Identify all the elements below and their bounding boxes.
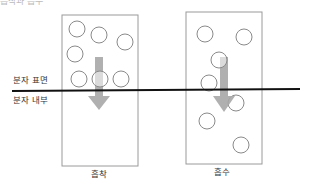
panel-absorption	[186, 12, 262, 164]
molecule-icon	[71, 71, 87, 87]
label-interior: 분자 내부	[13, 96, 48, 105]
molecule-icon	[197, 26, 213, 42]
molecule-icon	[117, 34, 133, 50]
molecule-icon	[199, 113, 215, 129]
label-surface: 분자 표면	[13, 76, 48, 85]
molecule-icon	[69, 21, 85, 37]
molecule-icon	[92, 71, 108, 87]
caption-absorption: 흡수	[214, 168, 230, 177]
molecule-icon	[211, 52, 227, 68]
molecule-icon	[233, 137, 249, 153]
molecule-icon	[236, 29, 252, 45]
molecule-icon	[113, 71, 129, 87]
molecule-icon	[67, 46, 83, 62]
molecule-icon	[91, 27, 107, 43]
caption-adsorption: 흡착	[91, 170, 107, 179]
